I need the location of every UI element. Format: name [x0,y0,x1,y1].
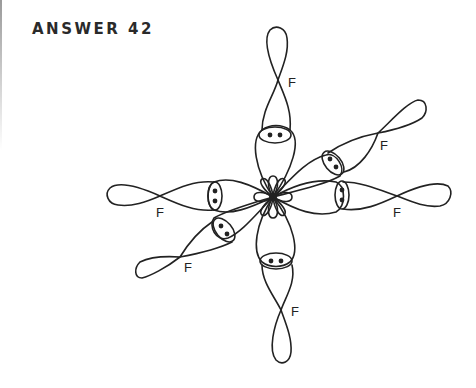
orbital-diagram: F F F F F [0,0,476,388]
fluorine-label-up: F [288,75,296,90]
arm-right: F [273,181,451,220]
arm-down: F [256,197,299,363]
arm-up: F [255,27,296,197]
fluorine-label-down: F [291,304,299,319]
fluorine-label-lower-left: F [184,260,192,275]
fluorine-label-right: F [393,205,401,220]
fluorine-label-left: F [156,205,164,220]
arm-left: F [107,180,273,220]
fluorine-label-upper-right: F [380,138,388,153]
